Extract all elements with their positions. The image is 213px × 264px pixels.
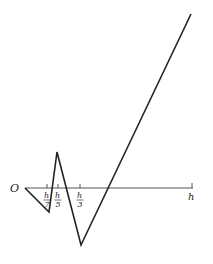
- function-graph: O h 7 h 5 h 3 h: [0, 0, 213, 264]
- label-h3: h 3: [77, 191, 84, 209]
- svg-text:h: h: [44, 191, 49, 200]
- svg-text:h: h: [77, 191, 82, 200]
- label-h7: h 7: [44, 191, 51, 209]
- svg-text:h: h: [55, 191, 60, 200]
- graph-line: [25, 14, 191, 245]
- svg-text:3: 3: [78, 200, 83, 209]
- svg-text:5: 5: [56, 200, 61, 209]
- label-h5: h 5: [55, 191, 62, 209]
- origin-label: O: [10, 182, 19, 195]
- label-h: h: [188, 191, 194, 202]
